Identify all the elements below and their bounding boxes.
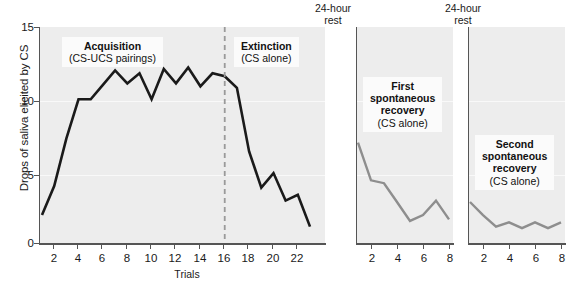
y-axis-label: Drops of saliva elicited by CS	[18, 0, 30, 236]
y-tick-label-15: 15	[10, 22, 34, 32]
annotation-acquisition: Acquisition (CS-UCS pairings)	[62, 37, 163, 67]
rest-label-1-line1: 24-hour	[315, 2, 351, 14]
panel1-x-tick-mark-4	[77, 244, 78, 249]
panel1-x-tick-label-16: 16	[214, 252, 234, 264]
panel3-x-tick-mark-6	[535, 244, 536, 249]
panel2-x-tick-label-4: 4	[388, 252, 408, 264]
annotation-first-recovery: First spontaneous recovery (CS alone)	[363, 77, 442, 132]
panel2-x-tick-mark-6	[423, 244, 424, 249]
panel1-x-tick-mark-18	[247, 244, 248, 249]
panel1-x-tick-mark-12	[174, 244, 175, 249]
panel1-x-tick-label-6: 6	[92, 252, 112, 264]
panel3-x-tick-label-8: 8	[552, 252, 570, 264]
panel1-x-tick-label-4: 4	[68, 252, 88, 264]
panel2-plot-area	[357, 27, 453, 244]
y-tick-label-10: 10	[10, 96, 34, 106]
y-tick-mark-15	[34, 27, 39, 28]
panel1-x-tick-mark-14	[199, 244, 200, 249]
panel1-x-tick-label-20: 20	[263, 252, 283, 264]
panel1-x-tick-mark-6	[101, 244, 102, 249]
second-recovery-line2: spontaneous	[482, 150, 547, 162]
extinction-title: Extinction	[241, 40, 292, 52]
panel3-x-tick-mark-4	[509, 244, 510, 249]
acquisition-title: Acquisition	[69, 40, 156, 52]
rest-label-1-line2: rest	[324, 14, 342, 26]
panel-second-spontaneous-recovery: Second spontaneous recovery (CS alone)	[469, 27, 565, 244]
panel-acquisition-extinction: Acquisition (CS-UCS pairings) Extinction…	[40, 27, 325, 244]
rest-label-2-line2: rest	[454, 14, 472, 26]
panel1-data-line	[42, 68, 310, 227]
first-recovery-line1: First	[370, 80, 435, 92]
extinction-subtitle: (CS alone)	[241, 52, 292, 64]
panel1-x-tick-label-14: 14	[190, 252, 210, 264]
panel3-x-tick-mark-8	[561, 244, 562, 249]
panel1-x-tick-label-8: 8	[117, 252, 137, 264]
rest-label-2-line1: 24-hour	[445, 2, 481, 14]
panel2-x-tick-label-8: 8	[440, 252, 460, 264]
second-recovery-line1: Second	[482, 138, 547, 150]
rest-label-1: 24-hour rest	[294, 2, 372, 26]
panel1-x-tick-mark-8	[126, 244, 127, 249]
panel1-x-tick-mark-2	[53, 244, 54, 249]
panel1-x-tick-mark-16	[223, 244, 224, 249]
panel1-x-tick-label-22: 22	[287, 252, 307, 264]
panel1-x-tick-label-10: 10	[141, 252, 161, 264]
panel3-x-tick-label-6: 6	[526, 252, 546, 264]
second-recovery-line3: recovery	[482, 162, 547, 174]
first-recovery-subtitle: (CS alone)	[370, 117, 435, 129]
panel1-x-axis-line	[39, 243, 326, 245]
annotation-second-recovery: Second spontaneous recovery (CS alone)	[475, 135, 554, 190]
panel3-x-tick-label-2: 2	[474, 252, 494, 264]
first-recovery-line2: spontaneous	[370, 92, 435, 104]
panel3-x-tick-label-4: 4	[500, 252, 520, 264]
rest-label-2: 24-hour rest	[424, 2, 502, 26]
y-tick-label-0: 0	[10, 238, 34, 248]
y-tick-mark-10	[34, 101, 39, 102]
panel1-x-tick-mark-10	[150, 244, 151, 249]
panel1-x-tick-mark-20	[272, 244, 273, 249]
annotation-extinction: Extinction (CS alone)	[234, 37, 299, 67]
panel2-x-tick-mark-8	[449, 244, 450, 249]
panel2-x-tick-mark-2	[371, 244, 372, 249]
panel1-x-tick-label-2: 2	[44, 252, 64, 264]
panel-first-spontaneous-recovery: First spontaneous recovery (CS alone)	[357, 27, 453, 244]
first-recovery-line3: recovery	[370, 104, 435, 116]
x-axis-title: Trials	[163, 268, 211, 280]
panel3-data-line	[470, 202, 561, 228]
y-tick-mark-5	[34, 175, 39, 176]
acquisition-subtitle: (CS-UCS pairings)	[69, 52, 156, 64]
second-recovery-subtitle: (CS alone)	[482, 175, 547, 187]
panel2-x-tick-mark-4	[397, 244, 398, 249]
panel2-x-tick-label-2: 2	[362, 252, 382, 264]
panel1-x-tick-mark-22	[296, 244, 297, 249]
panel1-x-tick-label-18: 18	[238, 252, 258, 264]
panel1-x-tick-label-12: 12	[165, 252, 185, 264]
panel2-x-tick-label-6: 6	[414, 252, 434, 264]
y-tick-label-5: 5	[10, 170, 34, 180]
panel3-x-tick-mark-2	[483, 244, 484, 249]
spontaneous-recovery-figure: Drops of saliva elicited by CS 15 10 5 0…	[0, 0, 570, 289]
panel2-data-line	[358, 143, 449, 221]
